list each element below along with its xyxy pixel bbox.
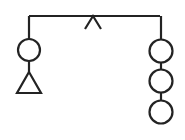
left-circle-node [18, 39, 40, 61]
left-triangle-node [17, 72, 41, 93]
diagram-canvas: Balance beam mobile diagram [0, 0, 185, 140]
fulcrum-caret-icon [85, 16, 101, 29]
right-circle-node-2 [150, 70, 173, 93]
right-circle-node-3 [150, 101, 173, 124]
balance-mobile-diagram [0, 0, 185, 140]
right-circle-node-1 [150, 40, 173, 63]
